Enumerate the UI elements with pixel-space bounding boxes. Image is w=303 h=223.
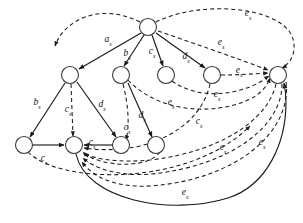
edge-mid-upper-to-far-right	[128, 78, 270, 109]
edge-label-ds-left-to-bottommid: ds	[98, 99, 106, 112]
edge-bottom-left-arc-to-center	[28, 126, 250, 175]
node-bottom-left[interactable]	[16, 137, 33, 154]
node-bottom-mid[interactable]	[113, 137, 130, 154]
edge-label-ds-root-to-right: ds	[182, 51, 190, 64]
edge-label-es-bottom-outer: es	[182, 187, 189, 200]
edge-label-es-mid-cross: es	[168, 97, 175, 110]
edge-left-upper-to-bottom-left	[30, 83, 65, 137]
node-root[interactable]	[140, 19, 157, 36]
edge-left-upper-to-bottom-mid	[77, 82, 116, 137]
node-left-upper[interactable]	[62, 67, 79, 84]
node-layer	[16, 19, 287, 154]
edge-label-cs-bottomleft-outer: cs	[41, 153, 48, 166]
graph-diagram-canvas: asbscsdsesesesbscsdscsdsesescscscseseses	[0, 0, 303, 223]
edge-label-es-right-to-farright: es	[236, 65, 243, 78]
node-bottom-center[interactable]	[66, 137, 83, 154]
edge-mid-right-to-far-right	[172, 76, 269, 94]
node-far-right[interactable]	[270, 67, 287, 84]
edge-label-es-right-cross: es	[214, 89, 221, 102]
edge-root-to-far-right	[158, 31, 268, 70]
edge-label-bs-root-to-mid: bs	[123, 48, 131, 61]
edge-layer-dashed	[28, 9, 294, 186]
graph-svg: asbscsdsesesesbscsdscsdsesescscscseseses	[0, 0, 303, 223]
node-mid-right-upper[interactable]	[158, 67, 175, 84]
edge-es-top-outer-arc	[156, 9, 294, 68]
edge-label-cs-bottom-inner: cs	[89, 137, 96, 150]
edge-label-es-top-outer: es	[245, 8, 252, 21]
edge-label-cs-root-to-midright: cs	[149, 46, 156, 59]
node-right-upper[interactable]	[204, 67, 221, 84]
edge-label-bs-left-to-bottomleft: bs	[33, 97, 41, 110]
edge-label-cs-mid-to-bottommid: cs	[124, 122, 131, 135]
edge-far-right-to-bottom-center-a	[84, 84, 276, 161]
edge-layer-solid	[30, 33, 286, 205]
edge-label-cs-right-descend: cs	[196, 116, 203, 129]
edge-label-cs-left-to-bottomcenter: cs	[65, 104, 72, 117]
edge-label-es-root-to-farright: es	[218, 37, 225, 50]
node-bottom-right[interactable]	[148, 137, 165, 154]
edge-label-ds-mid-to-bottomright: ds	[138, 110, 146, 123]
edge-right-upper-to-far-right	[221, 73, 268, 75]
edge-root-to-mid-right-upper	[152, 35, 163, 66]
edge-label-as-root-to-left: as	[104, 34, 112, 47]
edge-right-upper-descend-to-center	[84, 84, 210, 150]
edge-root-to-left-upper	[79, 33, 141, 69]
node-mid-upper[interactable]	[113, 67, 130, 84]
edge-label-es-lower-right-a: es	[220, 142, 227, 155]
edge-label-layer: asbscsdsesesesbscsdscsdsesescscscseseses	[33, 8, 265, 200]
edge-label-es-lower-right-b: es	[259, 137, 266, 150]
